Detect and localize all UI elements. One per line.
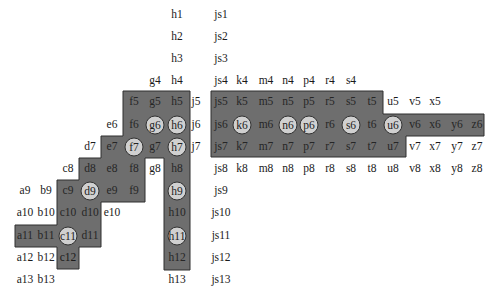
cell-label: j5 <box>192 96 201 108</box>
circled-cell-label: h6 <box>168 116 187 135</box>
cell-label: js5 <box>214 96 227 108</box>
cell-label: k7 <box>236 141 248 153</box>
cell-label: b11 <box>38 230 55 242</box>
cell-label: k8 <box>236 163 248 175</box>
cell-label: js8 <box>214 163 227 175</box>
cell-label: js7 <box>214 141 227 153</box>
cell-label: f8 <box>129 163 139 175</box>
cell-label: r7 <box>325 141 335 153</box>
cell-label: m8 <box>259 163 274 175</box>
cell-label: f9 <box>129 185 139 197</box>
cell-label: m4 <box>259 75 274 87</box>
cell-label: m5 <box>259 96 274 108</box>
cell-label: c12 <box>60 252 77 264</box>
cell-label: y6 <box>451 119 463 131</box>
cell-label: s8 <box>346 163 356 175</box>
cell-label: h13 <box>168 274 185 286</box>
cell-label: js9 <box>214 185 227 197</box>
cell-label: h12 <box>168 252 185 264</box>
cell-label: t8 <box>368 163 377 175</box>
circled-cell-label: h7 <box>168 138 187 157</box>
cell-label: h4 <box>171 75 183 87</box>
cell-label: z8 <box>472 163 483 175</box>
cell-label: e9 <box>107 185 118 197</box>
circled-cell-label: c11 <box>59 227 78 246</box>
circled-cell-label: h11 <box>168 227 187 246</box>
circled-cell-label: s6 <box>342 116 361 135</box>
cell-label: p5 <box>303 96 315 108</box>
cell-label: s5 <box>346 96 356 108</box>
cell-label: g7 <box>149 141 161 153</box>
cell-label: e8 <box>107 163 118 175</box>
cell-label: e10 <box>104 207 121 219</box>
cell-label: r4 <box>325 75 335 87</box>
cell-label: u5 <box>387 96 399 108</box>
cell-label: d10 <box>81 207 98 219</box>
cell-label: c10 <box>60 207 77 219</box>
cell-label: t6 <box>368 119 377 131</box>
cell-label: h3 <box>171 53 183 65</box>
cell-label: j6 <box>192 119 201 131</box>
cell-label: n7 <box>282 141 294 153</box>
cell-label: b10 <box>37 207 54 219</box>
cell-label: s4 <box>346 75 356 87</box>
cell-label: t7 <box>368 141 377 153</box>
cell-label: n8 <box>282 163 294 175</box>
cell-label: f6 <box>129 119 139 131</box>
cell-label: b9 <box>40 185 52 197</box>
cell-label: s7 <box>346 141 356 153</box>
cell-label: h1 <box>171 9 183 21</box>
cell-label: z7 <box>472 141 483 153</box>
cell-label: x7 <box>429 141 441 153</box>
cell-label: p4 <box>303 75 315 87</box>
cell-label: d7 <box>84 141 96 153</box>
cell-label: x5 <box>429 96 441 108</box>
cell-label: c9 <box>63 185 74 197</box>
cell-label: t5 <box>368 96 377 108</box>
cell-label: y7 <box>451 141 463 153</box>
circled-cell-label: k6 <box>233 116 252 135</box>
circled-cell-label: h9 <box>168 182 187 201</box>
circled-cell-label: g6 <box>146 116 165 135</box>
circled-cell-label: p6 <box>300 116 319 135</box>
cell-label: p8 <box>303 163 315 175</box>
cell-label: r6 <box>325 119 335 131</box>
cell-label: z6 <box>472 119 483 131</box>
cell-label: d8 <box>84 163 96 175</box>
cell-label: b12 <box>37 252 54 264</box>
cell-label: m6 <box>259 119 274 131</box>
cell-label: h5 <box>171 96 183 108</box>
cell-label: b13 <box>37 274 54 286</box>
cell-label: u7 <box>387 141 399 153</box>
cell-label: js11 <box>212 230 231 242</box>
cell-label: v7 <box>409 141 421 153</box>
circled-cell-label: f7 <box>125 138 144 157</box>
cell-label: u8 <box>387 163 399 175</box>
cell-label: g5 <box>149 96 161 108</box>
cell-label: js6 <box>214 119 227 131</box>
cell-label: js13 <box>211 274 230 286</box>
cell-label: h10 <box>168 207 185 219</box>
cell-label: h8 <box>171 163 183 175</box>
cell-label: e7 <box>107 141 118 153</box>
cell-label: k5 <box>236 96 248 108</box>
cell-label: a9 <box>20 185 31 197</box>
cell-label: j7 <box>192 141 201 153</box>
circled-cell-label: u6 <box>384 116 403 135</box>
cell-label: r5 <box>325 96 335 108</box>
cell-label: m7 <box>259 141 274 153</box>
cell-label: a10 <box>17 207 34 219</box>
cell-label: js1 <box>214 9 227 21</box>
cell-label: js12 <box>211 252 230 264</box>
cell-label: js10 <box>211 207 230 219</box>
cell-label: c8 <box>63 163 74 175</box>
cell-label: a11 <box>17 230 33 242</box>
cell-label: v6 <box>409 119 421 131</box>
cell-label: a12 <box>17 252 34 264</box>
cell-label: y8 <box>451 163 463 175</box>
cell-label: k4 <box>236 75 248 87</box>
cell-label: g4 <box>149 75 161 87</box>
cell-label: a13 <box>17 274 34 286</box>
cell-label: v5 <box>409 96 421 108</box>
cell-label: x8 <box>429 163 441 175</box>
